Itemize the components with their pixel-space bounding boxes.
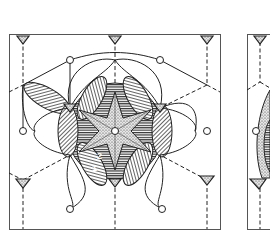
center-node — [112, 128, 119, 135]
right-panel — [247, 35, 270, 230]
left-panel: 2 1 — [9, 35, 221, 230]
diagram-figure: 2 1 — [0, 0, 270, 236]
region-label-1: 1 — [92, 163, 97, 173]
region-label-2: 2 — [97, 151, 102, 161]
